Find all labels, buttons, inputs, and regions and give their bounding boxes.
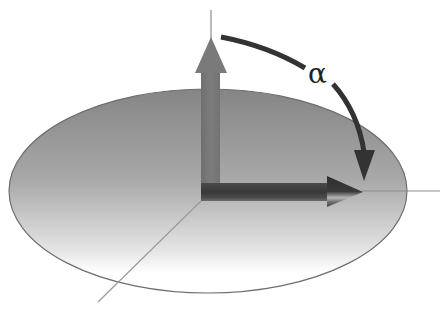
rotation-arc-upper — [221, 37, 305, 68]
rotation-angle-diagram: α — [0, 0, 445, 309]
horizontal-arrow-shaft — [201, 183, 328, 201]
vertical-arrow-head-icon — [195, 37, 227, 73]
angle-alpha-label: α — [308, 57, 327, 90]
vertical-arrow-shaft — [201, 72, 220, 184]
